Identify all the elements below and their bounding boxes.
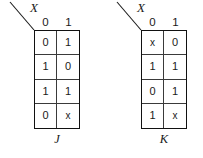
karnaugh-map-figure: X 0 1 0 1 1 0 1 1 0 x J	[0, 0, 203, 158]
kmap-row: 1 x	[142, 104, 186, 128]
kmap-row: 1 1	[35, 80, 79, 104]
kmap-row: x 0	[142, 31, 186, 55]
kmap-cell: 1	[57, 31, 79, 54]
column-header-1-k: 1	[164, 17, 187, 29]
kmap-cell: 0	[35, 31, 57, 54]
kmap-cell: 1	[142, 104, 164, 128]
kmap-cell: 1	[35, 80, 57, 103]
karnaugh-map-k: X 0 1 x 0 1 1 0 1 1 x K	[111, 0, 203, 158]
kmap-cell: 1	[142, 55, 164, 78]
column-headers-k: 0 1	[141, 17, 187, 29]
function-label-k: K	[141, 133, 187, 146]
kmap-row: 0 x	[35, 104, 79, 128]
kmap-cell: 1	[35, 55, 57, 78]
kmap-cell: 0	[142, 80, 164, 103]
column-header-0-j: 0	[34, 17, 57, 29]
kmap-cell: 0	[164, 31, 186, 54]
column-headers-j: 0 1	[34, 17, 80, 29]
variable-label-x-k: X	[137, 1, 145, 14]
kmap-row: 0 1	[35, 31, 79, 55]
kmap-row: 1 0	[35, 55, 79, 79]
column-header-0-k: 0	[141, 17, 164, 29]
kmap-row: 0 1	[142, 80, 186, 104]
variable-label-x-j: X	[30, 1, 38, 14]
kmap-cell: 1	[164, 55, 186, 78]
column-header-1-j: 1	[57, 17, 80, 29]
kmap-cell: 1	[164, 80, 186, 103]
kmap-cell: 0	[35, 104, 57, 128]
kmap-cell: x	[142, 31, 164, 54]
kmap-row: 1 1	[142, 55, 186, 79]
karnaugh-map-j: X 0 1 0 1 1 0 1 1 0 x J	[4, 0, 99, 158]
kmap-grid-k: x 0 1 1 0 1 1 x	[141, 30, 187, 129]
kmap-cell: x	[164, 104, 186, 128]
kmap-cell: 1	[57, 80, 79, 103]
kmap-cell: 0	[57, 55, 79, 78]
kmap-grid-j: 0 1 1 0 1 1 0 x	[34, 30, 80, 129]
function-label-j: J	[34, 133, 80, 146]
kmap-cell: x	[57, 104, 79, 128]
